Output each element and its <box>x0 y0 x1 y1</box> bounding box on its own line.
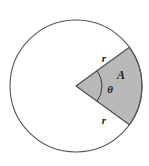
label-radius-upper: r <box>102 52 107 64</box>
label-radius-lower: r <box>102 114 107 126</box>
figure-container: r A θ r <box>0 0 149 166</box>
label-angle-theta: θ <box>107 83 113 95</box>
label-sector-area: A <box>116 68 125 82</box>
circle-sector-diagram: r A θ r <box>0 0 149 166</box>
